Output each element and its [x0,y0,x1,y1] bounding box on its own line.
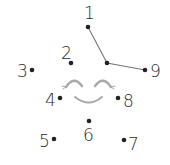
connect-the-dots-puzzle: 123456789 [0,0,170,165]
right-eye-lash [111,86,115,89]
left-eye-icon [66,81,82,87]
right-eye-icon [95,81,111,87]
dot-label-2: 2 [61,45,72,62]
dot-1 [86,25,91,30]
dot-7 [122,138,127,143]
dot-label-4: 4 [45,92,56,109]
dot-label-6: 6 [83,127,94,144]
unlabeled-dot [105,61,110,66]
dot-6 [87,119,92,124]
left-eye-lash [62,86,66,89]
dot-3 [30,68,35,73]
dot-label-3: 3 [17,63,28,80]
dot-5 [52,137,57,142]
dot-label-5: 5 [39,133,50,150]
face-icon [62,81,115,103]
dot-8 [116,96,121,101]
dot-9 [143,68,148,73]
dot-4 [58,96,63,101]
dot-label-7: 7 [128,136,139,153]
dot-label-1: 1 [84,5,95,22]
dot-label-8: 8 [123,93,134,110]
dot-label-9: 9 [150,63,161,80]
smile-icon [75,97,102,103]
drawn-line [88,27,145,70]
